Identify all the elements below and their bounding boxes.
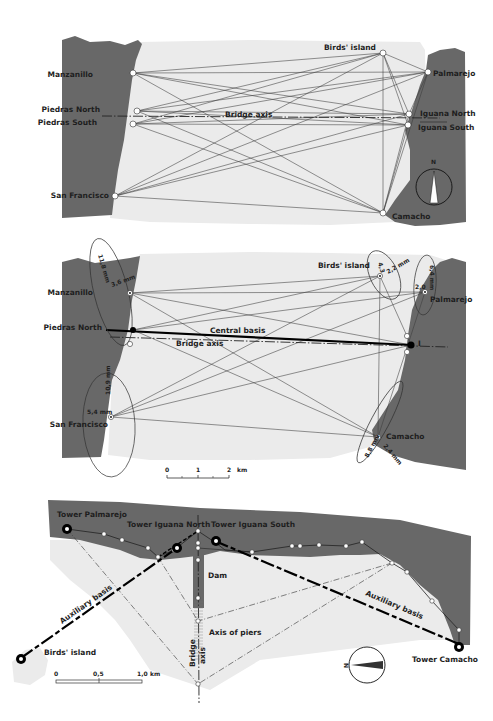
label-manzanillo: Manzanillo bbox=[48, 70, 94, 79]
label-bridge-axis: Bridge axis bbox=[176, 339, 224, 348]
label-manzanillo: Manzanillo bbox=[48, 288, 94, 297]
station-marker bbox=[134, 108, 140, 114]
scale-bar: 0 1 2 km bbox=[165, 466, 247, 478]
diagram-canvas: Manzanillo Piedras North Piedras South S… bbox=[0, 0, 493, 721]
panel-bridge-setout: Tower Palmarejo Tower Iguana North Tower… bbox=[12, 500, 478, 703]
traverse-point bbox=[146, 546, 150, 550]
panel-triangulation-network: Manzanillo Piedras North Piedras South S… bbox=[38, 36, 476, 226]
traverse-point bbox=[196, 619, 200, 623]
label-tower-camacho: Tower Camacho bbox=[412, 655, 478, 664]
station-marker bbox=[404, 349, 409, 354]
label-tower-palmarejo: Tower Palmarejo bbox=[57, 510, 127, 519]
traverse-point bbox=[196, 541, 200, 545]
tower-iguana-north-icon bbox=[172, 543, 182, 553]
station-marker bbox=[406, 111, 412, 117]
label-central-basis: Central basis bbox=[210, 326, 266, 335]
label-san-francisco: San Francisco bbox=[51, 191, 109, 200]
traverse-point bbox=[196, 529, 200, 533]
label-iguana-north: Iguana North bbox=[420, 109, 476, 118]
label-bridge-axis: Bridge axis bbox=[225, 110, 273, 119]
label-palmarejo: Palmarejo bbox=[433, 69, 475, 78]
traverse-point bbox=[457, 628, 461, 632]
water-area bbox=[110, 40, 428, 225]
panel-error-ellipses: Manzanillo Piedras North San Francisco B… bbox=[44, 235, 473, 479]
traverse-point bbox=[196, 546, 200, 550]
traverse-point bbox=[390, 561, 394, 565]
scale-tick-0: 0 bbox=[54, 670, 58, 677]
traverse-point bbox=[405, 570, 409, 574]
station-marker bbox=[380, 210, 386, 216]
label-tower-iguana-south: Tower Iguana South bbox=[211, 520, 295, 529]
label-piedras-south: Piedras South bbox=[38, 118, 97, 127]
traverse-point bbox=[120, 538, 124, 542]
label-san-francisco-major: 10,9 mm bbox=[104, 366, 111, 395]
label-axis-of-piers: Axis of piers bbox=[209, 628, 262, 637]
label-palmarejo-major: 6,4 mm bbox=[429, 265, 436, 290]
station-marker bbox=[404, 333, 409, 338]
svg-text:N: N bbox=[431, 158, 436, 165]
station-marker bbox=[405, 122, 411, 128]
station-marker-i bbox=[408, 342, 415, 349]
label-palmarejo-minor: 2,0 bbox=[415, 283, 426, 290]
station-center bbox=[110, 416, 112, 418]
station-marker bbox=[380, 50, 386, 56]
label-camacho: Camacho bbox=[386, 432, 424, 441]
scale-tick-1: 1 bbox=[196, 466, 200, 473]
traverse-point bbox=[196, 596, 200, 600]
label-birds-island: Birds' island bbox=[318, 261, 370, 270]
label-iguana-south: Iguana South bbox=[418, 123, 474, 132]
label-bridge: Bridge bbox=[188, 639, 197, 667]
tower-iguana-south-icon bbox=[211, 536, 221, 546]
station-marker bbox=[130, 121, 136, 127]
station-marker bbox=[112, 193, 118, 199]
label-tower-iguana-north: Tower Iguana North bbox=[127, 520, 210, 529]
label-birds-island: Birds' island bbox=[44, 648, 96, 657]
traverse-point bbox=[360, 540, 364, 544]
label-birds-island: Birds' island bbox=[324, 43, 376, 52]
traverse-point bbox=[156, 555, 160, 559]
tower-camacho-icon bbox=[454, 642, 464, 652]
birds-island-tower-icon bbox=[16, 654, 26, 664]
traverse-point bbox=[317, 543, 321, 547]
north-arrow-icon: N bbox=[343, 647, 385, 683]
label-piedras-north: Piedras North bbox=[44, 323, 102, 332]
station-marker bbox=[425, 69, 431, 75]
traverse-point bbox=[290, 544, 294, 548]
traverse-point bbox=[344, 544, 348, 548]
scale-tick-2: 2 bbox=[227, 466, 231, 473]
station-marker bbox=[130, 70, 136, 76]
station-center bbox=[129, 292, 131, 294]
label-san-francisco: San Francisco bbox=[50, 420, 108, 429]
traverse-point bbox=[196, 682, 200, 686]
station-marker-piedras-north bbox=[130, 327, 136, 333]
scale-tick-0: 0 bbox=[165, 466, 169, 473]
station-center bbox=[424, 291, 426, 293]
traverse-point bbox=[298, 544, 302, 548]
label-san-francisco-minor: 5,4 mm bbox=[87, 408, 112, 415]
station-marker bbox=[127, 341, 132, 346]
traverse-point bbox=[102, 532, 106, 536]
label-dam: Dam bbox=[208, 571, 227, 580]
label-axis: axis bbox=[198, 647, 207, 664]
scale-bar: 0 0,5 1,0 km bbox=[54, 670, 160, 683]
label-point-i: I bbox=[418, 339, 421, 348]
label-camacho: Camacho bbox=[392, 212, 430, 221]
station-center bbox=[379, 275, 381, 277]
label-piedras-north: Piedras North bbox=[42, 105, 100, 114]
birds-island-shoal bbox=[12, 648, 48, 685]
traverse-point bbox=[430, 599, 434, 603]
scale-unit: km bbox=[150, 670, 160, 677]
label-palmarejo: Palmarejo bbox=[430, 295, 472, 304]
scale-unit: km bbox=[237, 466, 247, 473]
svg-text:N: N bbox=[343, 663, 350, 668]
scale-tick-1-0: 1,0 bbox=[137, 670, 148, 677]
traverse-point bbox=[196, 558, 200, 562]
scale-tick-0-5: 0,5 bbox=[93, 670, 104, 677]
traverse-point bbox=[250, 550, 254, 554]
tower-palmarejo-icon bbox=[62, 524, 72, 534]
